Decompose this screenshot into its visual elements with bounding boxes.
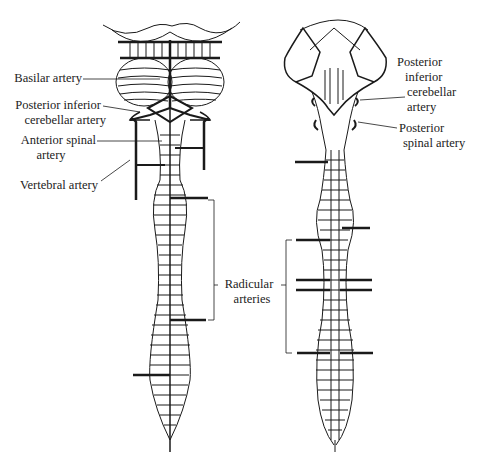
label-anterior-spinal-line2: artery (20, 148, 82, 163)
label-basilar-artery: Basilar artery (10, 71, 82, 86)
label-posterior-spinal-line2: spinal artery (403, 136, 465, 151)
label-post-pica-line2: inferior (405, 70, 442, 85)
label-pica-line2: cerebellar artery (0, 113, 106, 128)
posterior-brainstem (284, 20, 386, 150)
spinal-artery-diagram: Basilar artery Posterior inferior cerebe… (0, 0, 481, 457)
anterior-brainstem (103, 22, 240, 200)
anterior-spinal-cord (133, 108, 208, 452)
label-post-pica-line3: cerebellar (407, 85, 456, 100)
label-radicular-line1: Radicular (219, 277, 279, 292)
label-vertebral-artery: Vertebral artery (0, 178, 98, 193)
label-post-pica-line4: artery (407, 100, 436, 115)
label-radicular-line2: arteries (222, 292, 282, 307)
label-post-pica-line1: Posterior (397, 55, 442, 70)
label-anterior-spinal-line1: Anterior spinal (0, 133, 96, 148)
posterior-spinal-cord (295, 150, 373, 452)
label-pica-line1: Posterior inferior (0, 98, 101, 113)
label-posterior-spinal-line1: Posterior (399, 121, 444, 136)
